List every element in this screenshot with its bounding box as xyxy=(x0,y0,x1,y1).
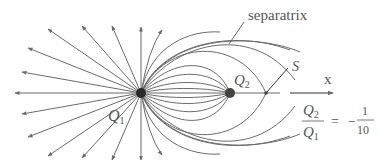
x-axis-label: x xyxy=(324,71,332,87)
charge-q2 xyxy=(225,88,235,98)
field-line-diagram: separatrix Q1 Q2 S x Q2 Q1 = − 1 10 xyxy=(0,0,380,166)
svg-text:1: 1 xyxy=(362,104,368,118)
charge-ratio: Q2 Q1 = − 1 10 xyxy=(302,102,374,142)
saddle-label: S xyxy=(292,59,299,74)
charge-q1 xyxy=(136,88,146,98)
separatrix-label: separatrix xyxy=(248,7,308,23)
svg-text:Q1: Q1 xyxy=(303,124,319,142)
svg-text:−: − xyxy=(348,114,356,129)
svg-text:=: = xyxy=(331,114,339,129)
saddle-point xyxy=(264,91,268,95)
q2-label: Q2 xyxy=(234,72,250,90)
saddle-pointer xyxy=(266,68,288,93)
svg-text:10: 10 xyxy=(357,123,369,137)
q1-to-q2-lines xyxy=(141,66,230,121)
svg-text:Q2: Q2 xyxy=(303,102,319,120)
q1-label: Q1 xyxy=(108,107,125,126)
